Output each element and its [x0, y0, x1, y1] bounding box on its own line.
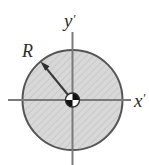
- x-prime-axis-label: x′: [133, 90, 145, 111]
- x-axis-prime-mark: ′: [142, 90, 145, 105]
- y-axis-prime-mark: ′: [72, 11, 75, 26]
- figure-container: y′ x′ R: [0, 0, 149, 165]
- y-axis-label-text: y: [62, 10, 73, 31]
- cross-section-diagram: y′ x′ R: [0, 0, 149, 165]
- centroid-pinwheel-marker: [66, 93, 80, 107]
- radius-label: R: [21, 41, 33, 61]
- y-prime-axis-label: y′: [62, 10, 75, 31]
